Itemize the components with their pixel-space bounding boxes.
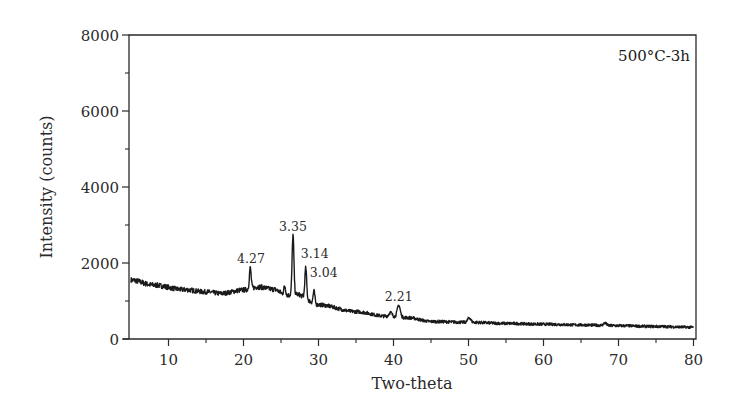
x-axis: 1020304050607080 <box>159 339 703 369</box>
x-tick-label: 10 <box>159 351 178 369</box>
xrd-chart: 02000400060008000 1020304050607080 4.273… <box>0 0 744 419</box>
peak-d-spacing-label: 3.14 <box>301 246 329 261</box>
x-tick-label: 40 <box>384 351 403 369</box>
x-tick-label: 20 <box>234 351 253 369</box>
y-axis: 02000400060008000 <box>81 27 129 349</box>
x-tick-label: 80 <box>684 351 703 369</box>
sample-condition-label: 500°C-3h <box>618 47 690 65</box>
y-tick-label: 2000 <box>81 255 119 273</box>
x-tick-label: 50 <box>459 351 478 369</box>
y-axis-title: Intensity (counts) <box>37 115 56 258</box>
y-tick-label: 8000 <box>81 27 119 45</box>
y-tick-label: 6000 <box>81 103 119 121</box>
peak-d-spacing-label: 3.35 <box>279 219 307 234</box>
x-tick-label: 60 <box>534 351 553 369</box>
peak-labels: 4.273.353.143.042.21 <box>237 219 413 304</box>
x-tick-label: 70 <box>609 351 628 369</box>
peak-d-spacing-label: 4.27 <box>237 251 265 266</box>
peak-d-spacing-label: 2.21 <box>385 289 413 304</box>
y-tick-label: 4000 <box>81 179 119 197</box>
x-tick-label: 30 <box>309 351 328 369</box>
peak-d-spacing-label: 3.04 <box>310 265 338 280</box>
x-axis-title: Two-theta <box>371 374 452 393</box>
xrd-pattern-line <box>131 234 694 328</box>
y-tick-label: 0 <box>109 331 119 349</box>
